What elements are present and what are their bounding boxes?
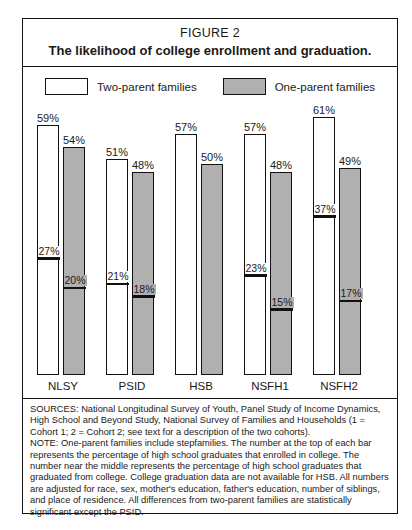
bar-nsfh2-two-parent: 61%37% (313, 117, 335, 375)
bar-top-label: 59% (37, 112, 59, 124)
figure-notes: SOURCES: National Longitudinal Survey of… (23, 399, 397, 518)
bar-top-label: 51% (106, 146, 128, 158)
bar-psid-two-parent: 51%21% (106, 159, 128, 375)
note-text: NOTE: One-parent families include stepfa… (30, 438, 390, 518)
bar-top-label: 57% (244, 121, 266, 133)
x-axis-label-hsb: HSB (175, 380, 227, 392)
graduation-rate-label: 23% (245, 263, 268, 274)
bar-psid-one-parent: 48%18% (132, 172, 154, 375)
legend-label-one-parent: One-parent families (275, 81, 375, 93)
bar-group-psid: 51%21%48%18% (106, 107, 158, 375)
gray-swatch-icon (223, 78, 266, 95)
graduation-marker-line: 21% (106, 283, 129, 286)
bar-top-label: 48% (132, 159, 154, 171)
bar-hsb-one-parent: 50% (201, 164, 223, 375)
graduation-rate-label: 27% (38, 246, 61, 257)
bar-chart-plot-area: 59%27%54%20%51%21%48%18%57%50%57%23%48%1… (23, 107, 397, 375)
figure-container: FIGURE 2 The likelihood of college enrol… (22, 18, 398, 514)
graduation-marker-line: 27% (37, 257, 60, 260)
graduation-rate-label: 37% (314, 204, 337, 215)
bar-top-label: 54% (63, 134, 85, 146)
bar-nsfh2-one-parent: 49%17% (339, 168, 361, 375)
graduation-marker-line: 17% (339, 300, 362, 303)
bar-top-label: 49% (339, 155, 361, 167)
bar-group-nsfh2: 61%37%49%17% (313, 107, 365, 375)
graduation-marker-line: 15% (270, 308, 293, 311)
bar-group-nsfh1: 57%23%48%15% (244, 107, 296, 375)
bar-group-hsb: 57%50% (175, 107, 227, 375)
bar-top-label: 61% (313, 104, 335, 116)
figure-number: FIGURE 2 (27, 25, 393, 41)
bar-top-label: 57% (175, 121, 197, 133)
sources-text: SOURCES: National Longitudinal Survey of… (30, 404, 390, 438)
legend-item-two-parent: Two-parent families (45, 78, 197, 95)
x-axis-label-psid: PSID (106, 380, 158, 392)
bar-top-label: 50% (201, 151, 223, 163)
x-axis-label-nsfh2: NSFH2 (313, 380, 365, 392)
bar-nlsy-one-parent: 54%20% (63, 147, 85, 375)
bar-nsfh1-two-parent: 57%23% (244, 134, 266, 375)
x-axis-label-nsfh1: NSFH1 (244, 380, 296, 392)
legend-item-one-parent: One-parent families (223, 78, 375, 95)
graduation-marker-line: 18% (132, 295, 155, 298)
graduation-marker-line: 23% (244, 274, 267, 277)
white-swatch-icon (45, 78, 88, 95)
figure-title-block: FIGURE 2 The likelihood of college enrol… (23, 19, 397, 67)
chart-legend: Two-parent families One-parent families (23, 78, 397, 95)
graduation-marker-line: 20% (63, 287, 86, 290)
graduation-rate-label: 15% (271, 297, 294, 308)
graduation-marker-line: 37% (313, 215, 336, 218)
legend-label-two-parent: Two-parent families (97, 81, 197, 93)
x-axis-labels: NLSYPSIDHSBNSFH1NSFH2 (23, 377, 397, 397)
bar-group-nlsy: 59%27%54%20% (37, 107, 89, 375)
graduation-rate-label: 20% (64, 275, 87, 286)
figure-title: The likelihood of college enrollment and… (27, 42, 393, 59)
graduation-rate-label: 21% (107, 271, 130, 282)
x-axis-label-nlsy: NLSY (37, 380, 89, 392)
bar-nlsy-two-parent: 59%27% (37, 125, 59, 375)
graduation-rate-label: 17% (340, 288, 363, 299)
graduation-rate-label: 18% (133, 284, 156, 295)
bar-hsb-two-parent: 57% (175, 134, 197, 375)
bar-top-label: 48% (270, 159, 292, 171)
bar-nsfh1-one-parent: 48%15% (270, 172, 292, 375)
